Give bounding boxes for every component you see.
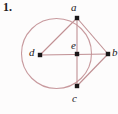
segment-c-b xyxy=(77,54,108,86)
segment-a-b xyxy=(77,18,108,54)
point-marker-a xyxy=(75,16,79,20)
geometry-figure: 1. a b c d e xyxy=(0,0,118,114)
point-label-e: e xyxy=(71,40,76,51)
point-label-d: d xyxy=(29,47,35,58)
point-marker-c xyxy=(75,84,79,88)
point-marker-b xyxy=(106,52,110,56)
point-label-c: c xyxy=(72,93,77,104)
point-marker-e xyxy=(75,52,79,56)
figure-canvas xyxy=(0,0,118,114)
point-label-a: a xyxy=(71,2,77,13)
point-label-b: b xyxy=(112,47,118,58)
point-marker-d xyxy=(38,53,42,57)
segment-d-b xyxy=(40,54,108,55)
